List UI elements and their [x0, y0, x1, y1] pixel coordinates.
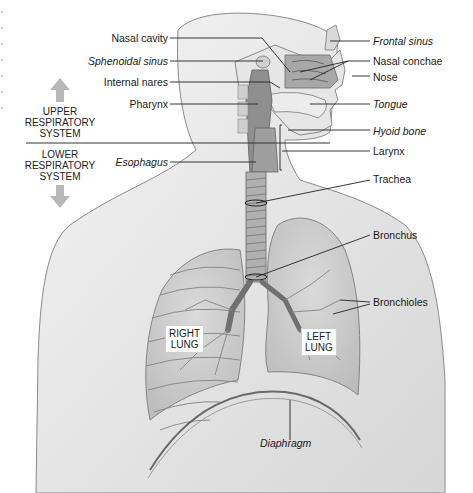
- upper-arrow-icon: [50, 78, 70, 102]
- larynx-shape: [252, 128, 278, 172]
- label-larynx: Larynx: [373, 145, 405, 157]
- margin-dots: [1, 11, 3, 109]
- label-bronchus: Bronchus: [373, 229, 417, 241]
- label-internal-nares: Internal nares: [104, 76, 168, 88]
- lower-respiratory-label: LOWER RESPIRATORY SYSTEM: [20, 149, 100, 182]
- label-pharynx: Pharynx: [129, 98, 168, 110]
- label-nose: Nose: [373, 71, 398, 83]
- label-diaphragm: Diaphragm: [260, 437, 311, 449]
- respiratory-diagram: Nasal cavity Sphenoidal sinus Internal n…: [0, 0, 473, 493]
- label-tongue: Tongue: [373, 98, 408, 110]
- trachea-shape: [246, 172, 266, 282]
- upper-respiratory-label: UPPER RESPIRATORY SYSTEM: [20, 106, 100, 139]
- left-lung-tag: LEFT LUNG: [301, 328, 337, 356]
- label-bronchioles: Bronchioles: [373, 296, 428, 308]
- label-nasal-cavity: Nasal cavity: [111, 32, 168, 44]
- label-trachea: Trachea: [373, 173, 411, 185]
- anatomy-illustration: [0, 0, 473, 493]
- label-frontal-sinus: Frontal sinus: [373, 35, 433, 47]
- label-hyoid-bone: Hyoid bone: [373, 125, 426, 137]
- label-sphenoidal-sinus: Sphenoidal sinus: [88, 55, 168, 67]
- lower-arrow-icon: [50, 185, 70, 208]
- label-nasal-conchae: Nasal conchae: [373, 55, 442, 67]
- right-lung-tag: RIGHT LUNG: [165, 325, 204, 353]
- label-esophagus: Esophagus: [115, 156, 168, 168]
